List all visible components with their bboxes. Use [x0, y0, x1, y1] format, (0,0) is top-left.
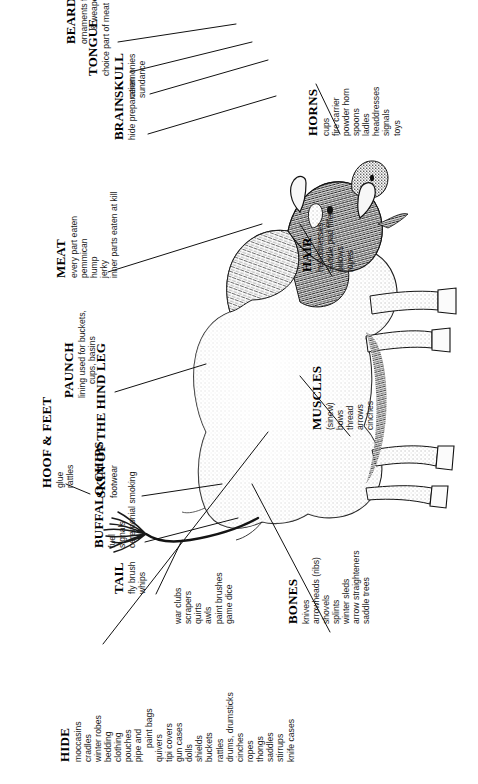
callout-heading: BONES — [286, 550, 300, 624]
callout-item: tipi covers — [164, 692, 174, 762]
callout-items: knives arrowheads (ribs) shovels splints… — [301, 550, 372, 624]
callout-item: moccasins — [73, 692, 83, 762]
callout-items: lining used for buckets, cups, basins — [77, 310, 97, 398]
callout-item: quivers — [154, 692, 164, 762]
callout-item: jerky — [99, 192, 109, 278]
callout-heading: BEARD — [64, 0, 78, 44]
buffalo-uses-diagram: HIDE moccasins cradles winter robes bedd… — [0, 0, 478, 784]
callout-item: rattles — [65, 397, 75, 488]
callout-item: cradles — [83, 692, 93, 762]
callout-item: scrapers — [183, 572, 193, 624]
callout-items: ceremonies sundance — [127, 53, 147, 98]
callout-beard: BEARD ornaments for clothing & weapons — [64, 0, 99, 44]
callout-item: ceremonial smoking — [127, 441, 137, 548]
callout-items: (sinew) bows thread arrows cinches — [325, 366, 376, 430]
callout-item: pillows — [335, 212, 345, 272]
callout-item: war clubs — [173, 572, 183, 624]
callout-hoof-and-feet: HOOF & FEET glue rattles — [40, 397, 75, 488]
callout-items: footwear — [109, 343, 119, 498]
callout-item: ropes — [245, 692, 255, 762]
callout-item: fly brush — [127, 562, 137, 594]
callout-item: stirrups — [275, 692, 285, 762]
callout-item: splints — [331, 550, 341, 624]
callout-item: thread — [345, 366, 355, 430]
callout-item: saddles — [265, 692, 275, 762]
callout-hair: HAIR headdresses saddle pad filler pillo… — [300, 212, 355, 272]
callout-skin-of-hind-leg: SKIN OF THE HIND LEG footwear — [94, 343, 119, 498]
callout-items: glue rattles — [55, 397, 75, 488]
callout-heading: TAIL — [112, 562, 126, 594]
callout-heading: MUSCLES — [310, 366, 324, 430]
callout-item: glue — [55, 397, 65, 488]
callout-item: arrow straighteners — [351, 550, 361, 624]
callout-item: arrows — [355, 366, 365, 430]
callout-item: hump — [89, 192, 99, 278]
callout-item: arrowheads (ribs) — [311, 550, 321, 624]
callout-heading: PAUNCH — [62, 310, 76, 398]
callout-item: choice part of meat — [101, 3, 111, 76]
callout-item: bows — [335, 366, 345, 430]
callout-item: gun cases — [174, 692, 184, 762]
callout-item: dolls — [184, 692, 194, 762]
callout-item: ladles — [361, 87, 371, 136]
callout-item: shields — [194, 692, 204, 762]
callout-skull: SKULL ceremonies sundance — [112, 53, 147, 98]
callout-item: game dice — [224, 572, 234, 624]
callout-tail: TAIL fly brush whips — [112, 562, 147, 594]
callout-item: bedding — [103, 692, 113, 762]
callout-items: choice part of meat — [101, 3, 111, 76]
callout-item: sundance — [137, 53, 147, 98]
callout-items: headdresses saddle pad filler pillows ro… — [315, 212, 356, 272]
callout-item: paint brushes — [214, 572, 224, 624]
callout-items: war clubs scrapers quirts awls paint bru… — [173, 572, 234, 624]
callout-items: every part eaten pemmican hump jerky inn… — [69, 192, 120, 278]
callout-heading: SKULL — [112, 53, 126, 98]
callout-item: ornaments for clothing — [79, 0, 89, 44]
callout-paunch: PAUNCH lining used for buckets, cups, ba… — [62, 310, 97, 398]
callout-item: headdresses — [371, 87, 381, 136]
callout-items: ornaments for clothing & weapons — [79, 0, 99, 44]
callout-item: quirts — [193, 572, 203, 624]
callout-items: fly brush whips — [127, 562, 147, 594]
callout-item: shovels — [321, 550, 331, 624]
callout-item: winter robes — [93, 692, 103, 762]
callout-items: moccasins cradles winter robes bedding c… — [73, 692, 296, 762]
callout-item: knives — [301, 550, 311, 624]
callout-item: pouches — [123, 692, 133, 762]
callout-item: ceremonies — [127, 53, 137, 98]
callout-item: thongs — [255, 692, 265, 762]
callout-item: toys — [392, 87, 402, 136]
callout-item: cups — [321, 87, 331, 136]
callout-item: clothing — [113, 692, 123, 762]
callout-item: every part eaten — [69, 192, 79, 278]
callout-item: spoons — [351, 87, 361, 136]
callout-hide: HIDE moccasins cradles winter robes bedd… — [58, 692, 296, 762]
callout-item: inner parts eaten at kill — [109, 192, 119, 278]
callout-heading: HAIR — [300, 212, 314, 272]
callout-item: awls — [203, 572, 213, 624]
callout-item: pipe and — [133, 692, 143, 762]
callout-item: whips — [137, 562, 147, 594]
callout-item: buckets — [204, 692, 214, 762]
callout-item: cups, basins — [87, 310, 97, 398]
callout-item: ropes — [345, 212, 355, 272]
callout-heading: HIDE — [58, 692, 72, 762]
callout-meat: MEAT every part eaten pemmican hump jerk… — [54, 192, 119, 278]
callout-horns: HORNS cups fire carrier powder horn spoo… — [306, 87, 402, 136]
callout-item: footwear — [109, 343, 119, 498]
callout-item: powder horn — [341, 87, 351, 136]
callout-items: cups fire carrier powder horn spoons lad… — [321, 87, 402, 136]
callout-heading: HORNS — [306, 87, 320, 136]
callout-item: cinches — [235, 692, 245, 762]
callout-item: paint bags — [144, 692, 154, 762]
callout-heading: HOOF & FEET — [40, 397, 54, 488]
callout-item: rattles — [215, 692, 225, 762]
callout-item: lining used for buckets, — [77, 310, 87, 398]
callout-item: headdresses — [315, 212, 325, 272]
callout-item: (sinew) — [325, 366, 335, 430]
callout-item: cinches — [365, 366, 375, 430]
callout-muscles: MUSCLES (sinew) bows thread arrows cinch… — [310, 366, 375, 430]
callout-item: & weapons — [89, 0, 99, 44]
callout-item: saddle trees — [361, 550, 371, 624]
callout-item: signals — [381, 87, 391, 136]
